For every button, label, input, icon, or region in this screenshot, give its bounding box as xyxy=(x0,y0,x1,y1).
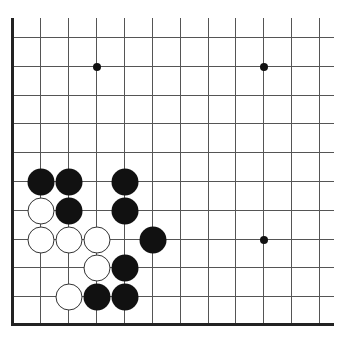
grid-line-horizontal xyxy=(12,66,334,67)
white-stone xyxy=(55,283,82,310)
grid-line-horizontal xyxy=(12,95,334,96)
white-stone xyxy=(55,226,82,253)
star-point xyxy=(260,63,268,71)
grid-line-vertical xyxy=(319,18,320,324)
black-stone xyxy=(55,168,82,195)
black-stone xyxy=(111,283,138,310)
black-stone xyxy=(111,197,138,224)
grid-line-horizontal xyxy=(12,123,334,124)
star-point xyxy=(260,236,268,244)
white-stone xyxy=(83,226,110,253)
black-stone xyxy=(55,197,82,224)
grid-line-horizontal xyxy=(12,37,334,38)
grid-line-horizontal xyxy=(12,267,334,268)
grid-line-vertical xyxy=(235,18,236,324)
grid-line-vertical xyxy=(291,18,292,324)
black-stone xyxy=(111,254,138,281)
grid-line-vertical xyxy=(208,18,209,324)
grid-line-horizontal xyxy=(12,152,334,153)
board-edge-bottom xyxy=(11,323,334,326)
star-point xyxy=(93,63,101,71)
white-stone xyxy=(83,254,110,281)
grid-line-vertical xyxy=(180,18,181,324)
board-edge-left xyxy=(11,18,14,326)
black-stone xyxy=(27,168,54,195)
go-board xyxy=(0,0,345,340)
white-stone xyxy=(27,226,54,253)
grid-line-vertical xyxy=(152,18,153,324)
black-stone xyxy=(83,283,110,310)
white-stone xyxy=(27,197,54,224)
black-stone xyxy=(111,168,138,195)
black-stone xyxy=(139,226,166,253)
